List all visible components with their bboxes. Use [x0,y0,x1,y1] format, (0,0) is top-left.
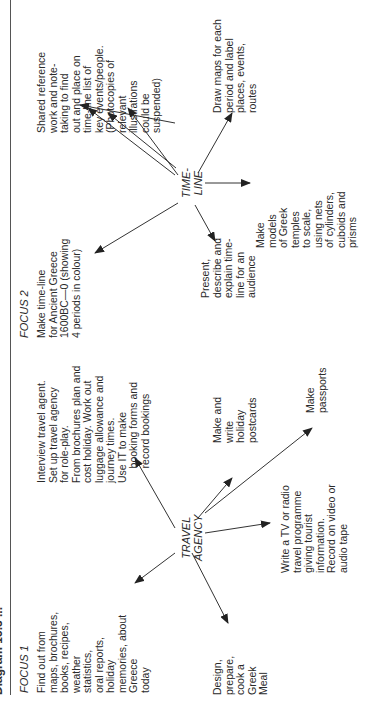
diagram-canvas: Diagram 15.3 ... FOCUS 1 Find out from m… [0,0,371,703]
arrow-to-present [195,205,215,241]
arrow-to-draw-maps [198,113,232,173]
arrow-to-make-timeline-2 [95,203,178,253]
arrow-to-shared-reference-2 [128,108,178,175]
arrows-focus-2 [0,0,371,703]
